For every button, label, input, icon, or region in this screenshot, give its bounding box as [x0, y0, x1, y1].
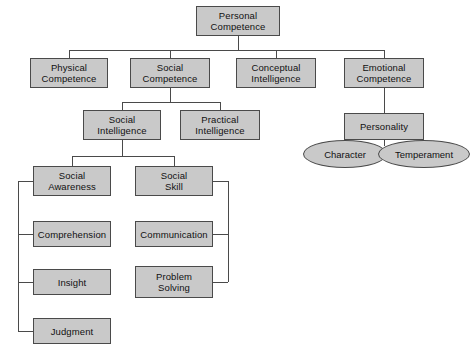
connector-stub-skill [213, 181, 228, 182]
node-social-skill: Social Skill [135, 166, 213, 196]
connector-drop-physical [69, 50, 70, 58]
node-conceptual-intelligence: Conceptual Intelligence [236, 58, 316, 88]
node-physical-competence: Physical Competence [30, 58, 108, 88]
node-temperament: Temperament [378, 140, 470, 168]
connector-drop-emotional [384, 50, 385, 58]
node-personal-competence: Personal Competence [196, 6, 280, 36]
connector-social-down [170, 88, 171, 102]
node-social-awareness: Social Awareness [33, 166, 111, 196]
connector-stub-communication [213, 234, 228, 235]
connector-stub-insight [18, 282, 33, 283]
connector-drop-socint [122, 102, 123, 110]
node-judgment: Judgment [33, 318, 111, 344]
connector-trunk-root-down [238, 36, 239, 50]
connector-stub-comprehension [18, 234, 33, 235]
connector-right-bracket [228, 181, 229, 282]
node-personality: Personality [344, 113, 424, 140]
connector-stub-problem [213, 282, 228, 283]
connector-stub-judgment [18, 331, 33, 332]
node-social-competence: Social Competence [130, 58, 210, 88]
connector-emotional-down [384, 88, 385, 113]
diagram-canvas: Personal CompetencePhysical CompetenceSo… [0, 0, 472, 359]
connector-row2-bus [122, 102, 220, 103]
connector-drop-social [170, 50, 171, 58]
node-emotional-competence: Emotional Competence [344, 58, 424, 88]
connector-drop-pracint [220, 102, 221, 110]
node-problem-solving: Problem Solving [135, 266, 213, 298]
node-insight: Insight [33, 269, 111, 295]
node-social-intelligence: Social Intelligence [83, 110, 161, 140]
connector-drop-conceptual [276, 50, 277, 58]
connector-drop-skill [174, 156, 175, 166]
node-communication: Communication [135, 221, 213, 247]
node-comprehension: Comprehension [33, 221, 111, 247]
connector-row1-bus [69, 50, 384, 51]
node-character: Character [303, 140, 387, 168]
node-practical-intelligence: Practical Intelligence [180, 110, 260, 140]
connector-stub-awareness [18, 181, 33, 182]
connector-row3-bus [72, 156, 174, 157]
connector-left-bracket [18, 181, 19, 331]
connector-socint-down [122, 140, 123, 156]
connector-personality-down [384, 140, 385, 146]
connector-drop-awareness [72, 156, 73, 166]
